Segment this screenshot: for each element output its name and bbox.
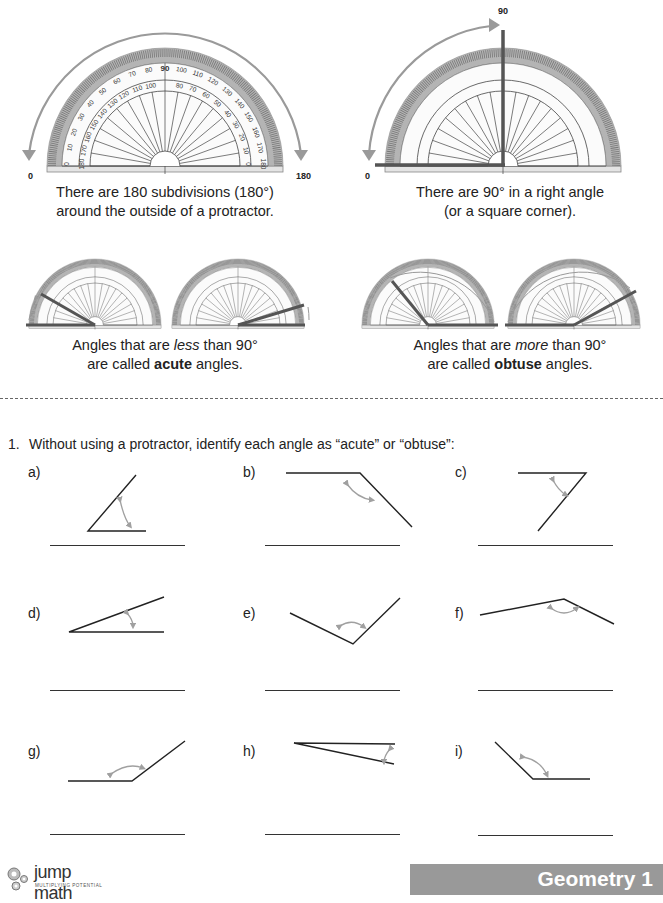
angle-arrow-a: [120, 500, 130, 526]
angle-f: [480, 599, 614, 624]
answer-line-h[interactable]: [265, 834, 400, 835]
answer-line-b[interactable]: [265, 545, 400, 546]
angle-i: [495, 742, 590, 779]
answer-line-e[interactable]: [265, 690, 400, 691]
logo-gears-icon: [4, 865, 32, 893]
section-footer-band: Geometry 1: [410, 864, 663, 895]
angle-arrow-f: [551, 608, 577, 613]
angle-arrow-b: [347, 484, 372, 500]
answer-line-g[interactable]: [50, 834, 185, 835]
angle-d: [69, 597, 164, 632]
angle-arrow-e: [340, 622, 364, 627]
answer-line-c[interactable]: [478, 545, 613, 546]
angle-b: [286, 473, 412, 527]
angle-arrow-d: [127, 613, 133, 626]
logo-tagline: MULTIPLYING POTENTIAL: [35, 883, 102, 888]
angle-arrow-c: [553, 480, 566, 495]
section-title: Geometry 1: [537, 867, 653, 891]
answer-line-d[interactable]: [50, 690, 185, 691]
angle-arrow-h: [384, 749, 390, 762]
answer-line-a[interactable]: [50, 545, 185, 546]
answer-line-i[interactable]: [478, 835, 613, 836]
angle-h: [294, 743, 395, 764]
angle-e: [290, 598, 400, 644]
angle-c: [518, 473, 586, 531]
answer-line-f[interactable]: [478, 690, 613, 691]
angle-a: [88, 475, 146, 531]
angle-arrow-g: [111, 766, 143, 774]
angle-g: [68, 741, 185, 781]
